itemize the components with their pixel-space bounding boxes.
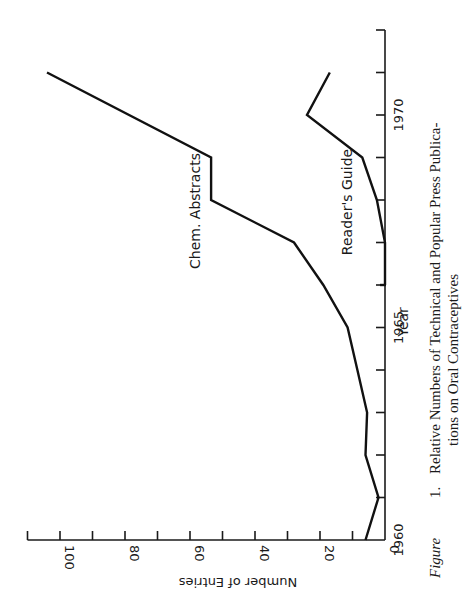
series-line-chem-abstracts bbox=[47, 73, 379, 541]
y-axis-title: Number of Entries bbox=[179, 575, 298, 590]
figure-caption-number: 1. bbox=[427, 487, 443, 498]
y-tick-label: 60 bbox=[192, 545, 207, 562]
figure-caption-line2: tions on Oral Contraceptives bbox=[445, 274, 461, 446]
series-label-chem-abstracts: Chem. Abstracts bbox=[187, 153, 203, 269]
x-axis-title: Year bbox=[395, 307, 411, 338]
figure-caption-line1: Relative Numbers of Technical and Popula… bbox=[427, 122, 443, 474]
x-tick-label: 1970 bbox=[391, 98, 406, 131]
series-label-readers-guide: Reader's Guide bbox=[339, 149, 355, 255]
chart: 196019651970020406080100 Chem. Abstracts… bbox=[0, 0, 476, 604]
y-tick-label: 100 bbox=[62, 545, 77, 570]
figure-caption-prefix: Figure bbox=[427, 537, 443, 579]
y-tick-label: 0 bbox=[387, 545, 402, 553]
axes bbox=[28, 30, 386, 540]
series-lines bbox=[47, 73, 386, 541]
y-tick-label: 40 bbox=[257, 545, 272, 562]
y-tick-label: 20 bbox=[322, 545, 337, 562]
ticks bbox=[28, 30, 386, 540]
y-tick-label: 80 bbox=[127, 545, 142, 562]
